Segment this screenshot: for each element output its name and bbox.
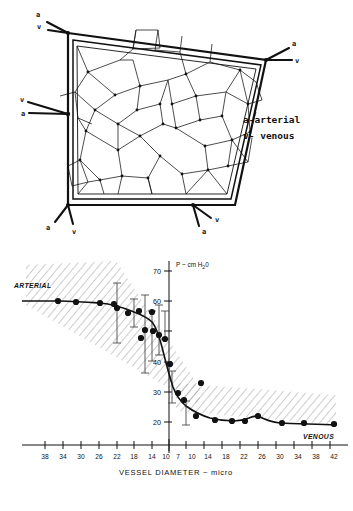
data-point — [114, 305, 120, 311]
data-point — [193, 413, 199, 419]
data-point — [212, 417, 218, 423]
data-point — [97, 300, 103, 306]
data-point — [198, 380, 204, 386]
x-tick-16: 38 — [312, 453, 320, 460]
data-point — [142, 327, 148, 333]
shaded-band-venous — [176, 383, 336, 425]
data-point — [181, 397, 187, 403]
data-point — [229, 418, 235, 424]
data-point — [242, 418, 248, 424]
data-point — [55, 298, 61, 304]
network-diagram-svg: a v a v v a a v v a a-arterial v- venous — [0, 0, 353, 243]
x-tick-8: 7 — [176, 453, 180, 460]
x-tick-7: 10 — [162, 453, 170, 460]
terminal-label-bottom-right-v: v — [215, 216, 219, 224]
data-point — [136, 308, 142, 314]
network-outer-vessel-walls-inner — [73, 40, 261, 199]
legend-venous-label: v- venous — [243, 130, 294, 141]
y-axis-title: P ~ cm H20 — [176, 261, 209, 270]
data-point — [138, 335, 144, 341]
network-outer-vessel-walls — [68, 33, 266, 205]
x-axis-title: VESSEL DIAMETER ~ micro — [119, 468, 233, 477]
x-tick-12: 22 — [240, 453, 248, 460]
terminal-label-bottom-left-a: a — [46, 224, 50, 232]
terminal-label-top-right-a: a — [292, 40, 296, 48]
x-tick-6: 14 — [148, 453, 156, 460]
x-axis-tick-labels: 38 34 30 26 22 18 14 10 7 10 14 18 22 26… — [41, 453, 338, 460]
x-tick-9: 10 — [188, 453, 196, 460]
x-tick-13: 26 — [258, 453, 266, 460]
data-point — [162, 336, 168, 342]
pressure-chart-panel: 70 60 40 30 20 P ~ cm H20 — [0, 243, 353, 511]
x-tick-0: 38 — [41, 453, 49, 460]
network-outer-vessel-walls-third — [77, 46, 256, 194]
y-tick-20: 20 — [153, 418, 161, 427]
data-point — [167, 361, 173, 367]
x-tick-11: 18 — [222, 453, 230, 460]
x-tick-5: 18 — [130, 453, 138, 460]
x-tick-15: 34 — [294, 453, 302, 460]
x-tick-1: 34 — [59, 453, 67, 460]
x-tick-3: 26 — [95, 453, 103, 460]
data-point — [73, 299, 79, 305]
network-diagram-panel: a v a v v a a v v a a-arterial v- venous — [0, 0, 353, 243]
arterial-side-label: ARTERIAL — [13, 282, 51, 289]
x-tick-4: 22 — [113, 453, 121, 460]
x-tick-2: 30 — [77, 453, 85, 460]
x-tick-10: 14 — [204, 453, 212, 460]
terminal-label-top-right-v: v — [295, 57, 299, 65]
y-axis-title-prefix: P ~ cm H — [176, 261, 203, 268]
data-point — [149, 309, 155, 315]
data-point — [279, 420, 285, 426]
svg-text:P ~ cm H20: P ~ cm H20 — [176, 261, 209, 270]
terminal-label-left-a: a — [21, 110, 25, 118]
figure-root: a v a v v a a v v a a-arterial v- venous — [0, 0, 353, 511]
x-tick-14: 30 — [276, 453, 284, 460]
terminal-label-left-v: v — [20, 96, 24, 104]
y-tick-30: 30 — [153, 388, 161, 397]
terminal-label-bottom-left-v: v — [72, 228, 76, 236]
data-point — [331, 421, 337, 427]
legend-arterial-label: a-arterial — [243, 114, 300, 125]
data-point — [301, 420, 307, 426]
terminal-label-top-left-v: v — [37, 23, 41, 31]
y-tick-40: 40 — [153, 358, 161, 367]
y-tick-70: 70 — [153, 267, 161, 276]
x-tick-17: 42 — [330, 453, 338, 460]
terminal-label-top-left-a: a — [36, 11, 40, 19]
venous-side-label: VENOUS — [303, 433, 334, 440]
data-point — [175, 390, 181, 396]
data-point — [156, 332, 162, 338]
data-point — [255, 413, 261, 419]
y-axis-title-suffix: 0 — [205, 261, 209, 268]
data-point — [150, 328, 156, 334]
pressure-chart-svg: 70 60 40 30 20 P ~ cm H20 — [0, 243, 353, 511]
terminal-label-bottom-right-a: a — [202, 228, 206, 236]
data-point — [125, 310, 131, 316]
